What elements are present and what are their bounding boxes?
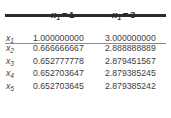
cell-value-column-1: 0.652703645 (28, 81, 100, 94)
table-body: x1 1.000000000 3.000000000 x2 0.66666666… (5, 28, 166, 93)
cell-value-column-2: 3.000000000 (100, 28, 166, 43)
table-row: x4 0.652703647 2.879385245 (5, 68, 166, 81)
header-subscript-1: 1 (56, 14, 60, 21)
table-row: x3 0.652777778 2.879451567 (5, 56, 166, 69)
row-label-subscript: 1 (10, 37, 14, 44)
row-label: x5 (5, 81, 28, 94)
column-header-x1-equals-3: x1=3 (100, 0, 166, 28)
cell-value-column-1: 0.652703647 (28, 68, 100, 81)
table-row: x1 1.000000000 3.000000000 (5, 28, 166, 43)
cell-value-column-1: 0.666666667 (28, 43, 100, 56)
row-label: x3 (5, 56, 28, 69)
cell-value-column-2: 2.888888889 (100, 43, 166, 56)
row-label-subscript: 3 (10, 60, 14, 67)
header-value-1: 1 (69, 9, 74, 20)
header-equals-1: = (60, 9, 69, 20)
cell-value-column-2: 2.879451567 (100, 56, 166, 69)
row-label: x1 (5, 28, 28, 43)
column-header-label (5, 0, 28, 28)
row-label-subscript: 4 (10, 72, 14, 79)
cell-value-column-2: 2.879385242 (100, 81, 166, 94)
table-header: x1=1 x1=3 (5, 0, 166, 28)
row-label-subscript: 2 (10, 47, 14, 54)
header-row: x1=1 x1=3 (5, 0, 166, 28)
header-subscript-2: 1 (117, 14, 121, 21)
row-label: x4 (5, 68, 28, 81)
column-header-x1-equals-1: x1=1 (28, 0, 100, 28)
cell-value-column-1: 1.000000000 (28, 28, 100, 43)
table-row: x2 0.666666667 2.888888889 (5, 43, 166, 56)
data-table: x1=1 x1=3 x1 1.000000000 3.000000000 x2 … (5, 0, 166, 93)
cell-value-column-2: 2.879385245 (100, 68, 166, 81)
header-value-2: 3 (130, 9, 135, 20)
row-label-subscript: 5 (10, 85, 14, 92)
numeric-iteration-table: x1=1 x1=3 x1 1.000000000 3.000000000 x2 … (5, 0, 166, 118)
row-label: x2 (5, 43, 28, 56)
cell-value-column-1: 0.652777778 (28, 56, 100, 69)
header-equals-2: = (121, 9, 130, 20)
table-row: x5 0.652703645 2.879385242 (5, 81, 166, 94)
